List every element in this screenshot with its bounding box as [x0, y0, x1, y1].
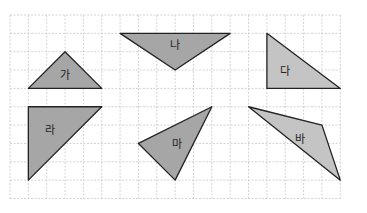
triangle-label: 나: [170, 39, 180, 52]
triangle-grid-diagram: 가나다라마바: [0, 0, 367, 213]
triangle-label: 가: [60, 69, 70, 82]
triangle-label: 다: [280, 65, 290, 78]
diagram-canvas: 가나다라마바: [0, 0, 367, 213]
triangle-label: 바: [295, 133, 305, 146]
triangle-3: 다: [267, 33, 340, 88]
triangle-label: 마: [172, 138, 182, 151]
triangle-shape: [267, 33, 340, 88]
triangle-label: 라: [45, 124, 55, 137]
